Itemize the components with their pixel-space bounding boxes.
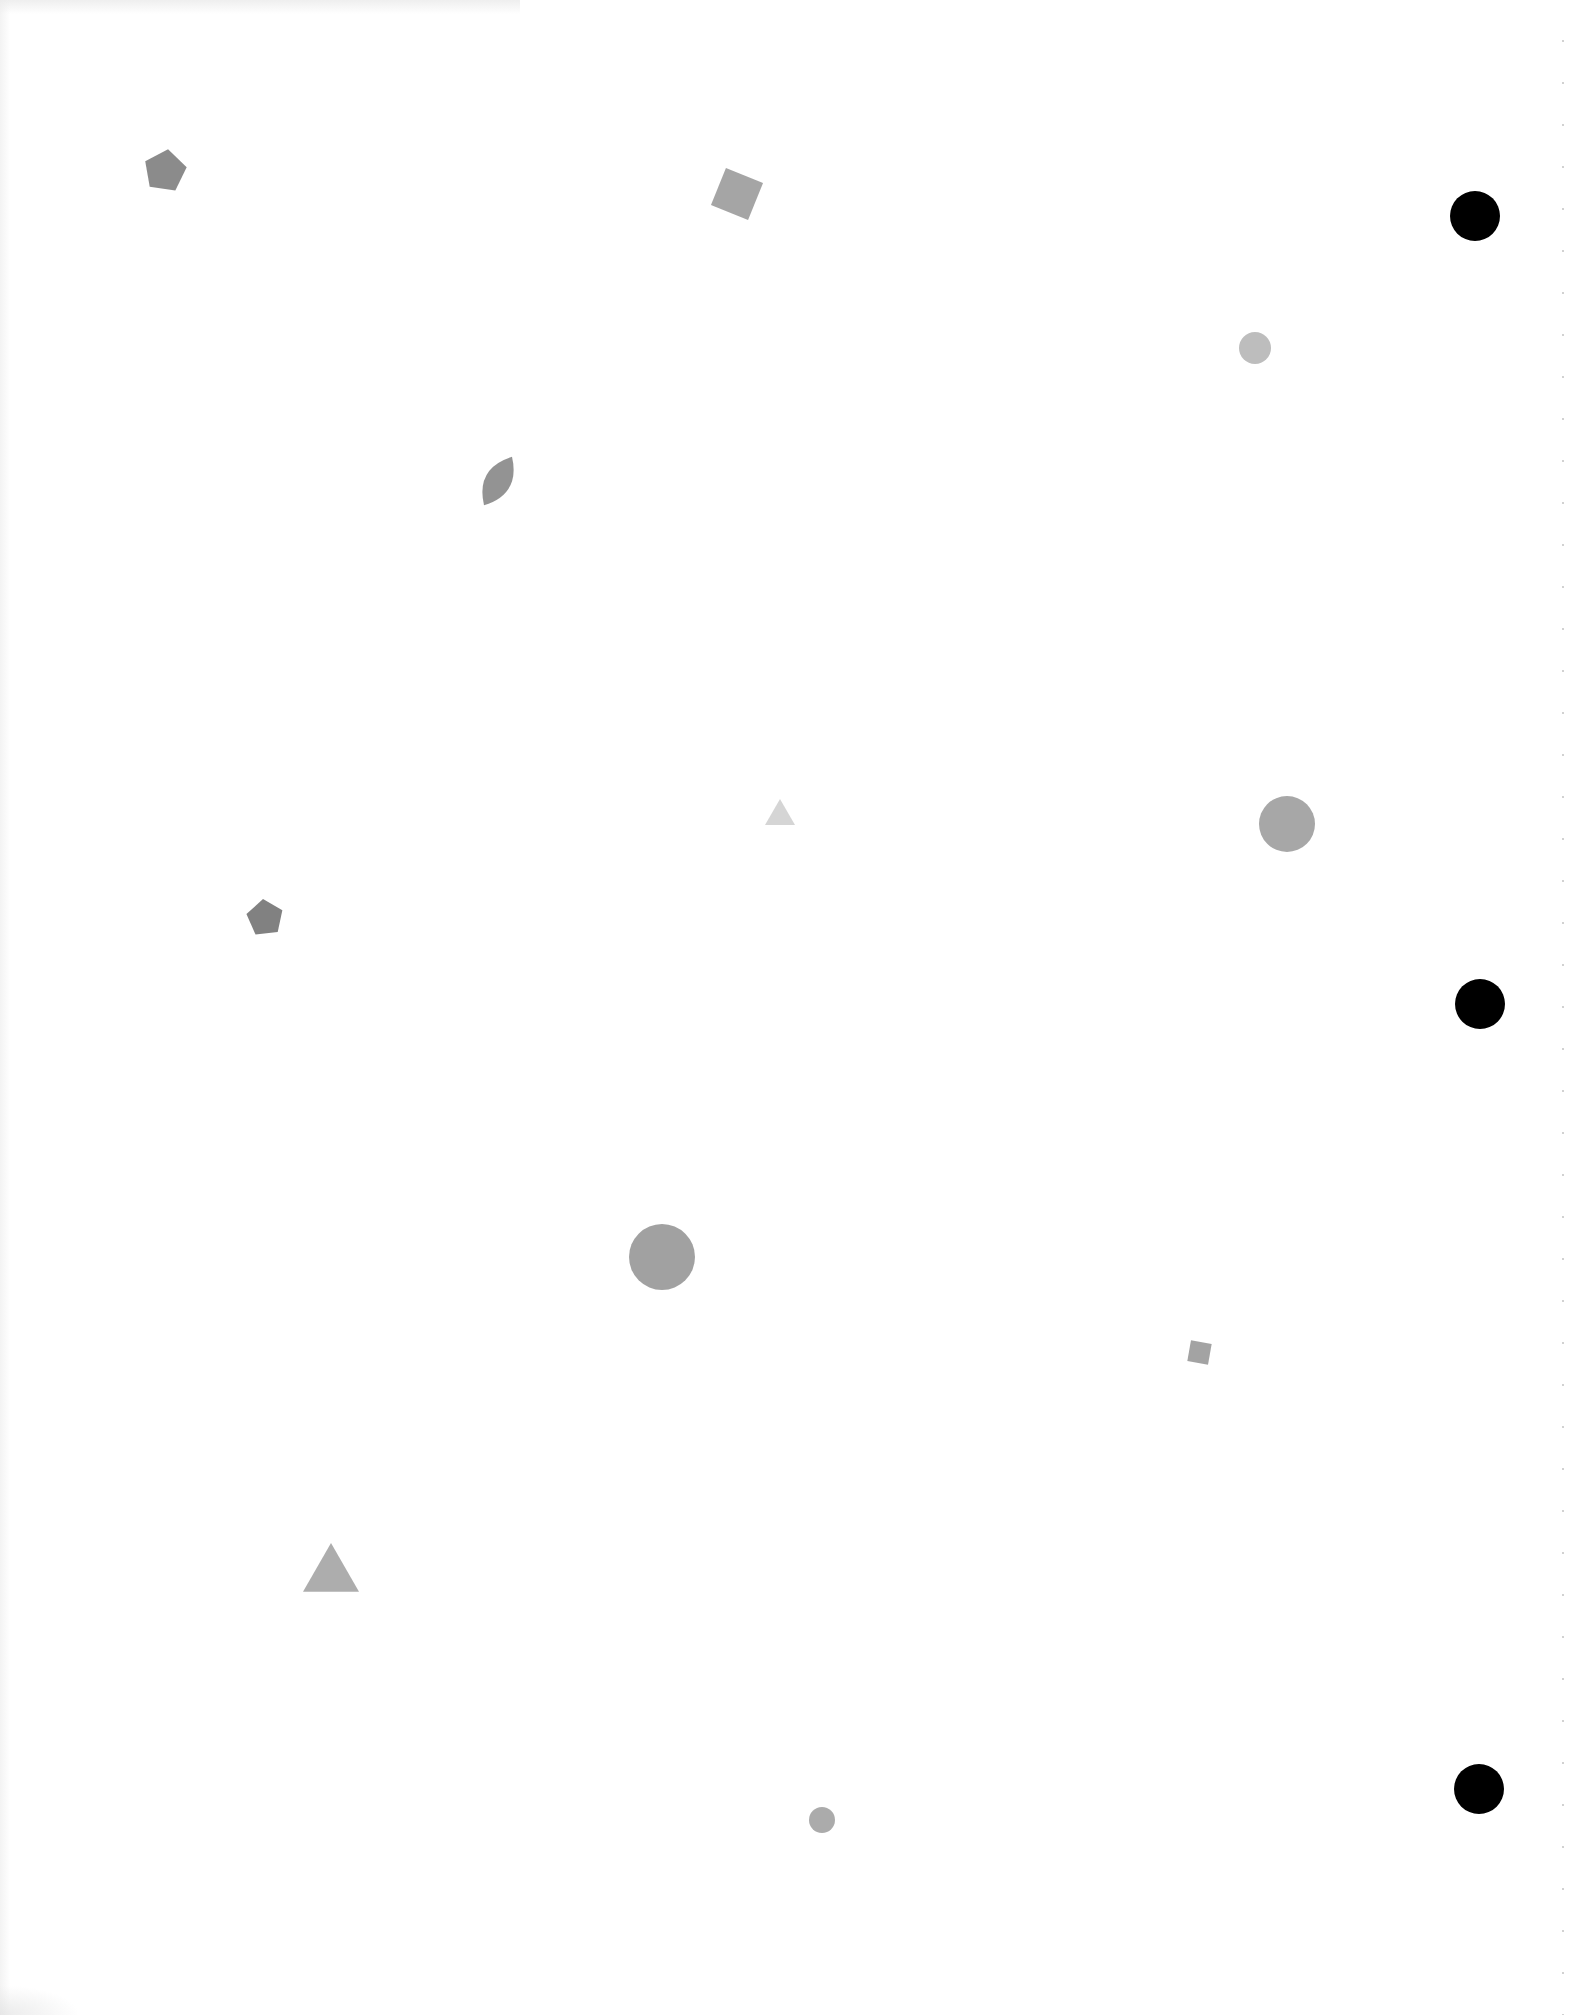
pentagon-shape-small [246, 899, 284, 937]
scanned-page [0, 0, 1588, 2015]
scan-shadow-bottom-left [0, 1985, 80, 2015]
triangle-shape [303, 1543, 359, 1592]
right-margin-dotted-line [1562, 0, 1564, 2015]
square-shape-small [1189, 1342, 1210, 1363]
square-shape [717, 174, 757, 214]
textured-circle-large [629, 1224, 695, 1290]
binder-hole-top [1450, 191, 1500, 241]
pentagon-shape [143, 149, 187, 193]
circle-shape-small [809, 1807, 835, 1833]
scan-shadow-left [0, 0, 10, 2015]
textured-circle-small [1239, 332, 1271, 364]
leaf-shape [478, 453, 518, 509]
circle-shape-medium [1259, 796, 1315, 852]
triangle-shape-light [765, 799, 795, 825]
scan-shadow-top [0, 0, 520, 14]
binder-hole-bottom [1454, 1764, 1504, 1814]
binder-hole-middle [1455, 979, 1505, 1029]
